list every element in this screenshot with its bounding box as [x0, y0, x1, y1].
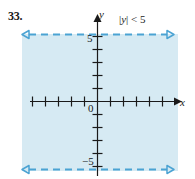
x-axis-label: x [180, 96, 185, 108]
inequality-annotation: |y| < 5 [119, 13, 146, 25]
graph-figure: 33. [0, 0, 195, 179]
coordinate-plane-graph [0, 0, 195, 179]
origin-label: 0 [88, 102, 94, 114]
y-tick-label-5: 5 [87, 32, 93, 44]
y-axis-label: y [99, 8, 104, 20]
y-tick-label-negative-5: −5 [82, 155, 94, 167]
inequality-suffix: | < 5 [126, 13, 145, 25]
